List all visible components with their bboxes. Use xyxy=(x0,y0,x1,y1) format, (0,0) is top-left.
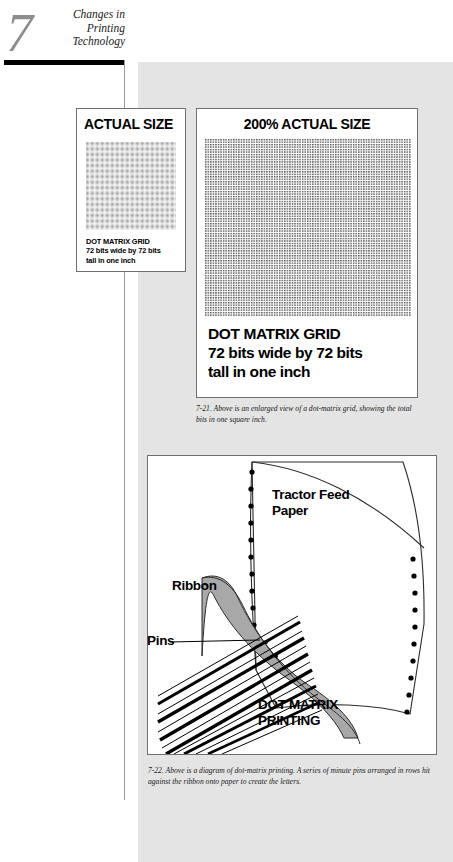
label-dot-matrix-printing: DOT MATRIX PRINTING xyxy=(258,697,388,729)
actual-size-caption: DOT MATRIX GRID 72 bits wide by 72 bits … xyxy=(86,237,182,265)
dot-matrix-grid-actual xyxy=(86,142,176,230)
actual-size-caption-line-1: DOT MATRIX GRID xyxy=(86,237,182,246)
chapter-title-line-1: Changes in xyxy=(46,8,125,22)
actual-size-panel: ACTUAL SIZE DOT MATRIX GRID 72 bits wide… xyxy=(76,108,186,272)
chapter-title-line-3: Technology xyxy=(46,35,125,49)
enlarged-size-caption-line-2: 72 bits wide by 72 bits xyxy=(208,343,413,362)
label-tractor-feed-paper: Tractor Feed Paper xyxy=(272,487,382,519)
label-tractor-feed-line-1: Tractor Feed xyxy=(272,487,382,503)
enlarged-size-caption: DOT MATRIX GRID 72 bits wide by 72 bits … xyxy=(208,324,413,381)
enlarged-size-caption-line-1: DOT MATRIX GRID xyxy=(208,324,413,343)
label-pins: Pins xyxy=(147,633,174,649)
chapter-number: 7 xyxy=(6,8,31,58)
chapter-title-line-2: Printing xyxy=(46,22,125,36)
figure-7-22-caption: 7-22. Above is a diagram of dot-matrix p… xyxy=(148,766,438,787)
dot-matrix-grid-enlarged xyxy=(205,139,411,317)
chapter-title: Changes in Printing Technology xyxy=(46,8,125,49)
enlarged-size-caption-line-3: tall in one inch xyxy=(208,362,413,381)
enlarged-size-heading: 200% ACTUAL SIZE xyxy=(197,109,417,136)
header-horizontal-rule xyxy=(4,60,125,65)
label-ribbon: Ribbon xyxy=(172,578,217,594)
label-tractor-feed-line-2: Paper xyxy=(272,503,382,519)
actual-size-heading: ACTUAL SIZE xyxy=(77,109,185,137)
label-dmp-line-1: DOT MATRIX xyxy=(258,697,388,713)
label-dmp-line-2: PRINTING xyxy=(258,713,388,729)
actual-size-caption-line-3: tall in one inch xyxy=(86,256,182,265)
enlarged-size-panel: 200% ACTUAL SIZE DOT MATRIX GRID 72 bits… xyxy=(196,108,418,398)
actual-size-caption-line-2: 72 bits wide by 72 bits xyxy=(86,246,182,255)
figure-7-21-caption: 7-21. Above is an enlarged view of a dot… xyxy=(196,404,422,425)
